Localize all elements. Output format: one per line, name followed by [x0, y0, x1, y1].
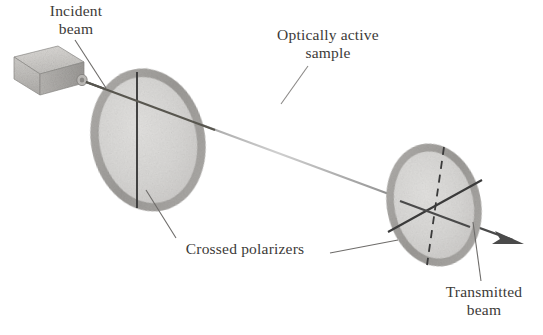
label-incident-beam: Incident beam	[22, 2, 130, 38]
label-optically-active-sample-line2: sample	[238, 44, 418, 62]
leader-crossed-polarizers-right	[330, 240, 398, 253]
label-transmitted-beam-line1: Transmitted	[428, 283, 540, 301]
label-optically-active-sample: Optically active sample	[238, 26, 418, 62]
source-aperture-icon	[77, 74, 87, 85]
label-incident-beam-line2: beam	[22, 20, 130, 38]
label-crossed-polarizers: Crossed polarizers	[160, 240, 330, 258]
label-transmitted-beam-line2: beam	[428, 301, 540, 319]
label-crossed-polarizers-line1: Crossed polarizers	[160, 240, 330, 258]
second-polarizer	[375, 135, 493, 276]
first-polarizer	[77, 58, 218, 223]
leader-optically-active-sample	[281, 66, 308, 104]
label-transmitted-beam: Transmitted beam	[428, 283, 540, 319]
label-incident-beam-line1: Incident	[22, 2, 130, 20]
light-source-box	[14, 46, 84, 95]
label-optically-active-sample-line1: Optically active	[238, 26, 418, 44]
beam-arrowhead	[492, 231, 524, 244]
